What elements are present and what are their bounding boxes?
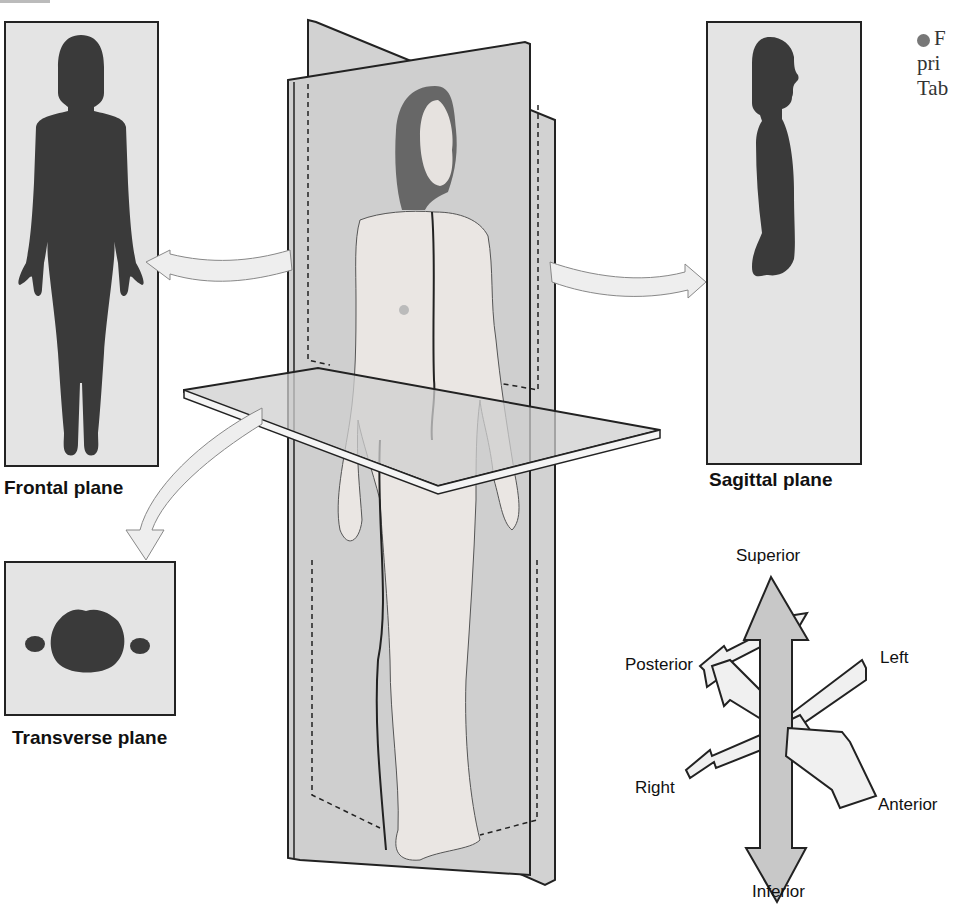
anterior-label: Anterior	[878, 795, 938, 815]
frontal-arrow-icon	[146, 250, 292, 281]
body-planes-illustration	[0, 0, 956, 907]
transverse-arrow-icon	[126, 408, 262, 560]
posterior-label: Posterior	[625, 655, 693, 675]
direction-compass-icon	[686, 577, 876, 902]
left-label: Left	[880, 648, 908, 668]
right-label: Right	[635, 778, 675, 798]
superior-label: Superior	[736, 546, 800, 566]
inferior-label: Inferior	[752, 882, 805, 902]
sagittal-arrow-icon	[550, 262, 706, 298]
